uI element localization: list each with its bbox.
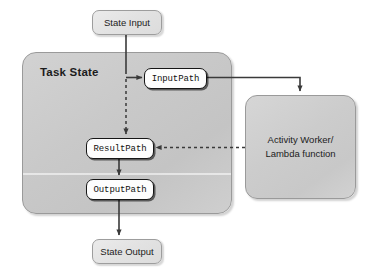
- output-path-box: OutputPath: [86, 179, 154, 200]
- input-path-box: InputPath: [144, 68, 207, 89]
- activity-worker-line1: Activity Worker/: [268, 134, 334, 145]
- state-input-label: State Input: [104, 17, 150, 28]
- activity-worker-line2: Lambda function: [265, 148, 335, 159]
- result-path-box: ResultPath: [86, 138, 154, 159]
- activity-worker-lambda-text: Activity Worker/ Lambda function: [265, 133, 335, 161]
- diagram-canvas: Task State Activity Worker/ Lambda funct…: [0, 0, 373, 272]
- state-output-label: State Output: [100, 246, 153, 257]
- state-input-box: State Input: [92, 10, 162, 35]
- activity-worker-lambda-box: Activity Worker/ Lambda function: [245, 95, 356, 199]
- input-path-label: InputPath: [152, 74, 200, 84]
- result-path-label: ResultPath: [93, 144, 146, 154]
- state-output-box: State Output: [92, 239, 162, 264]
- output-path-label: OutputPath: [93, 185, 146, 195]
- task-state-label: Task State: [40, 66, 99, 78]
